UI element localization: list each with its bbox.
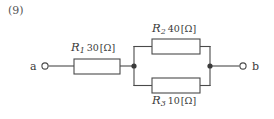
resistor-unit-r2: [Ω]	[181, 23, 196, 34]
junction-dot-left	[131, 63, 136, 68]
resistor-unit-r1: [Ω]	[100, 42, 115, 53]
terminal-label-a: a	[30, 61, 37, 72]
junction-dot-right	[207, 63, 212, 68]
resistor-box-r1	[74, 59, 120, 74]
terminal-circle-a	[42, 63, 48, 69]
resistor-symbol-r3: R	[152, 93, 161, 107]
terminal-circle-b	[240, 63, 246, 69]
resistor-label-r2: R240[Ω]	[152, 23, 196, 36]
resistor-box-r3	[152, 78, 200, 93]
circuit-diagram-page: (9)	[0, 0, 274, 119]
resistor-subscript-r3: 3	[161, 99, 166, 108]
resistor-subscript-r1: 1	[80, 46, 85, 55]
resistor-symbol-r2: R	[152, 21, 161, 35]
resistor-label-r3: R310[Ω]	[152, 95, 196, 108]
terminal-label-b: b	[252, 61, 259, 72]
resistor-label-r1: R130[Ω]	[71, 42, 115, 55]
circuit-schematic	[0, 0, 274, 119]
resistor-subscript-r2: 2	[161, 27, 166, 36]
resistor-value-r2: 40	[168, 23, 180, 34]
resistor-symbol-r1: R	[71, 40, 80, 54]
resistor-value-r1: 30	[87, 42, 99, 53]
resistor-unit-r3: [Ω]	[181, 95, 196, 106]
resistor-value-r3: 10	[168, 95, 180, 106]
resistor-box-r2	[152, 39, 200, 54]
